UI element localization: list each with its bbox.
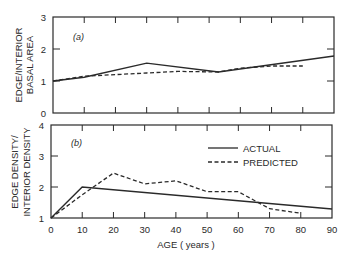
panel-b-label: (b) xyxy=(71,138,82,148)
panel-a-actual-line xyxy=(53,56,334,81)
svg-text:0: 0 xyxy=(41,108,46,119)
panel-a-ylabel-line2: BASAL AREA xyxy=(24,35,35,94)
legend: ACTUAL PREDICTED xyxy=(208,143,298,168)
svg-text:20: 20 xyxy=(108,224,119,235)
panel-b-frame xyxy=(51,125,332,218)
legend-predicted-label: PREDICTED xyxy=(243,157,298,168)
x-tick-labels: 0102030405060708090 xyxy=(48,224,337,235)
panel-a-ylabel-line1: EDGE/INTERIOR xyxy=(13,27,24,102)
svg-text:3: 3 xyxy=(41,12,46,23)
svg-text:2: 2 xyxy=(39,182,44,193)
svg-text:10: 10 xyxy=(77,224,88,235)
svg-text:70: 70 xyxy=(264,224,275,235)
panel-a-ticks xyxy=(53,17,334,113)
svg-text:30: 30 xyxy=(139,224,150,235)
svg-text:0: 0 xyxy=(48,224,53,235)
svg-text:2: 2 xyxy=(41,44,46,55)
svg-text:4: 4 xyxy=(39,120,44,131)
svg-text:60: 60 xyxy=(233,224,244,235)
svg-text:80: 80 xyxy=(295,224,306,235)
svg-text:40: 40 xyxy=(171,224,182,235)
legend-actual-label: ACTUAL xyxy=(243,143,280,154)
panel-b-ylabel-line2: INTERIOR DENSITY xyxy=(21,127,32,217)
svg-text:1: 1 xyxy=(39,213,44,224)
panel-a: 0123 (a) EDGE/INTERIOR BASAL AREA xyxy=(13,12,334,119)
figure: 0123 (a) EDGE/INTERIOR BASAL AREA 1234 0… xyxy=(0,0,345,259)
panel-b-ticks xyxy=(51,125,332,218)
panel-b-actual-line xyxy=(51,187,332,218)
panel-a-label: (a) xyxy=(73,32,84,42)
panel-b-y-tick-labels: 1234 xyxy=(39,120,44,224)
svg-text:1: 1 xyxy=(41,76,46,87)
panel-a-y-tick-labels: 0123 xyxy=(41,12,46,119)
panel-b: 1234 0102030405060708090 (b) EDGE DENSIT… xyxy=(9,120,337,236)
svg-text:90: 90 xyxy=(327,224,338,235)
svg-text:3: 3 xyxy=(39,151,44,162)
svg-text:50: 50 xyxy=(202,224,213,235)
panel-a-predicted-line xyxy=(53,66,303,81)
panel-b-ylabel-line1: EDGE DENSITY/ xyxy=(9,135,20,209)
x-axis-label: AGE ( years ) xyxy=(157,239,215,250)
panel-a-frame xyxy=(53,17,334,113)
